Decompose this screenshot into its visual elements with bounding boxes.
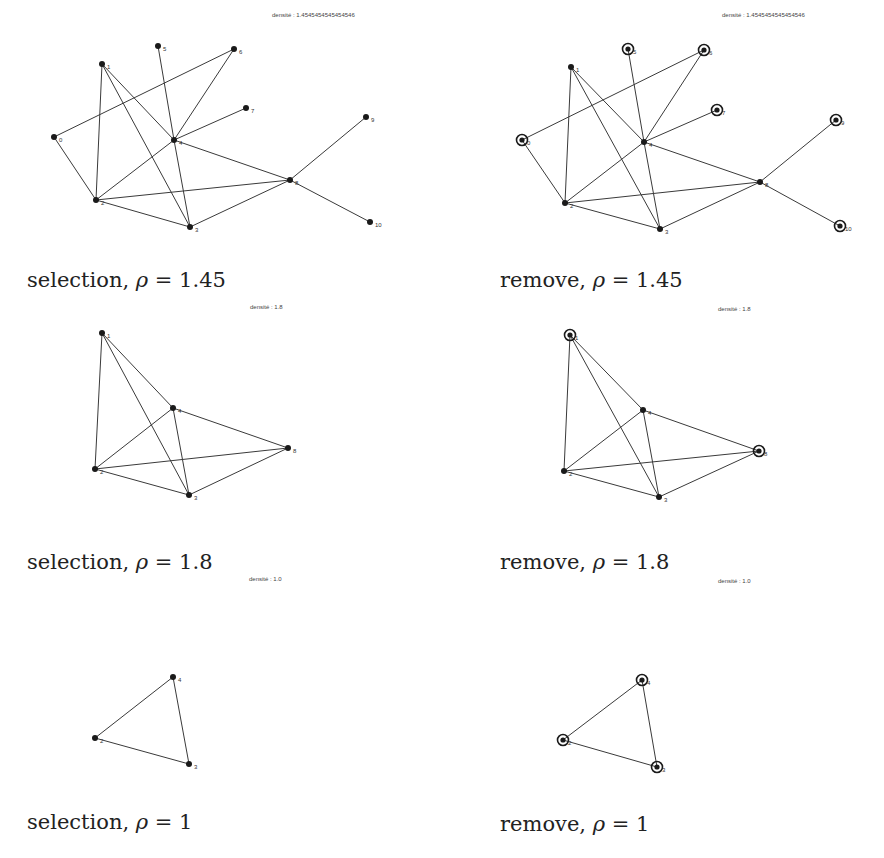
edge-4-8	[643, 410, 759, 451]
caption-method: remove,	[500, 550, 593, 574]
edge-2-8	[565, 182, 760, 203]
node-label: 8	[293, 448, 297, 454]
node-9	[833, 117, 838, 122]
edge-3-8	[660, 182, 760, 229]
node-label: 3	[665, 229, 669, 235]
node-label: 6	[239, 49, 243, 55]
node-label: 1	[576, 67, 580, 73]
node-1	[99, 61, 105, 67]
rho-symbol: ρ	[136, 550, 148, 574]
caption-method: selection,	[27, 810, 136, 834]
edge-2-3	[564, 471, 659, 497]
edge-3-8	[190, 180, 290, 227]
node-label: 3	[662, 767, 666, 773]
node-label: 3	[194, 764, 198, 770]
node-5	[625, 46, 630, 51]
node-0	[519, 137, 524, 142]
edge-1-2	[96, 64, 102, 200]
node-8	[757, 179, 763, 185]
edge-0-2	[522, 140, 565, 203]
node-4	[640, 407, 646, 413]
node-label: 3	[195, 227, 199, 233]
edge-2-3	[95, 738, 189, 764]
node-label: 7	[251, 108, 255, 114]
node-7	[243, 105, 249, 111]
edge-1-2	[564, 335, 570, 471]
node-label: 0	[59, 137, 63, 143]
density-label: densité : 1.8	[718, 306, 751, 312]
node-label: 2	[100, 738, 104, 744]
edge-1-3	[102, 64, 190, 227]
node-label: 10	[845, 226, 852, 232]
edge-8-9	[290, 117, 366, 180]
node-10	[367, 219, 373, 225]
edge-6-4	[644, 50, 704, 142]
node-2	[562, 200, 568, 206]
caption-value: = 1.45	[605, 268, 683, 292]
graph-remove-1: 012345678910	[517, 44, 853, 236]
rho-symbol: ρ	[593, 812, 605, 836]
edge-0-6	[522, 50, 704, 140]
node-label: 2	[569, 471, 573, 477]
edge-2-8	[96, 180, 290, 200]
caption-method: remove,	[500, 812, 593, 836]
node-2	[560, 737, 565, 742]
node-4	[639, 677, 644, 682]
edge-2-4	[563, 680, 642, 740]
node-label: 2	[570, 203, 574, 209]
node-2	[93, 197, 99, 203]
node-label: 3	[664, 497, 668, 503]
node-6	[231, 46, 237, 52]
edge-4-2	[565, 142, 644, 203]
caption-value: = 1.8	[148, 550, 212, 574]
rho-symbol: ρ	[593, 268, 605, 292]
panel-caption: selection, ρ = 1	[27, 810, 192, 834]
edge-2-8	[564, 451, 759, 471]
graph-selection-3: 234	[92, 674, 198, 770]
edge-4-8	[644, 142, 760, 182]
node-label: 1	[575, 335, 579, 341]
panel-caption: selection, ρ = 1.45	[27, 268, 226, 292]
node-2	[92, 735, 98, 741]
node-label: 2	[101, 200, 105, 206]
density-label: densité : 1.0	[249, 576, 282, 582]
node-2	[561, 468, 567, 474]
edge-4-8	[173, 408, 288, 448]
graph-selection-2: 12348	[92, 330, 297, 501]
edge-1-4	[570, 335, 643, 410]
edge-0-6	[54, 49, 234, 137]
edge-8-9	[760, 120, 836, 182]
node-label: 2	[568, 740, 572, 746]
density-label: densité : 1.8	[250, 304, 283, 310]
node-1	[99, 330, 105, 336]
caption-value: = 1	[605, 812, 649, 836]
caption-method: remove,	[500, 268, 593, 292]
caption-value: = 1	[148, 810, 192, 834]
edge-8-10	[760, 182, 840, 226]
node-9	[363, 114, 369, 120]
node-3	[186, 492, 192, 498]
edge-8-10	[290, 180, 370, 222]
edge-4-3	[642, 680, 657, 767]
graph-selection-1: 012345678910	[51, 43, 382, 233]
node-label: 5	[163, 46, 167, 52]
edge-2-8	[95, 448, 288, 469]
graph-remove-2: 12348	[561, 330, 768, 504]
node-label: 9	[841, 120, 845, 126]
edge-1-4	[102, 333, 173, 408]
edge-1-3	[102, 333, 189, 495]
node-label: 3	[194, 495, 198, 501]
caption-method: selection,	[27, 268, 136, 292]
edge-4-2	[564, 410, 643, 471]
node-3	[656, 494, 662, 500]
density-label: densité : 1.4545454545454546	[722, 12, 805, 18]
node-3	[657, 226, 663, 232]
edge-3-8	[189, 448, 288, 495]
node-4	[171, 137, 177, 143]
node-7	[714, 107, 719, 112]
node-3	[654, 764, 659, 769]
edge-4-3	[643, 410, 659, 497]
graph-remove-3: 234	[558, 675, 667, 774]
node-4	[641, 139, 647, 145]
density-label: densité : 1.4545454545454546	[272, 12, 355, 18]
